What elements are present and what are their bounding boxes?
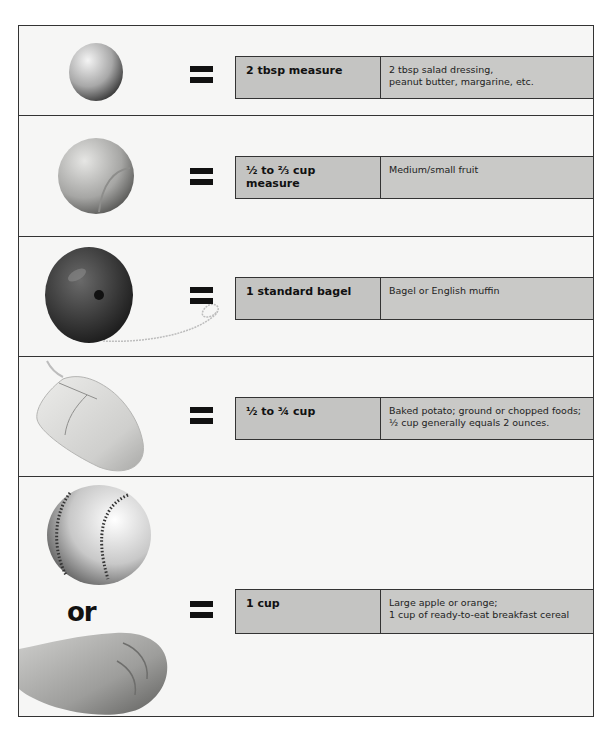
description: Bagel or English muffin bbox=[381, 278, 593, 319]
or-label: or bbox=[67, 597, 96, 627]
description-line: peanut butter, margarine, etc. bbox=[389, 76, 585, 88]
golf-ball-icon bbox=[66, 42, 126, 102]
row-tennis-ball: ½ to ⅔ cup measure Medium/small fruit bbox=[19, 116, 593, 237]
equals-sign-icon bbox=[190, 287, 213, 304]
row-yo-yo: 1 standard bagel Bagel or English muffin bbox=[19, 237, 593, 357]
description: 2 tbsp salad dressing, peanut butter, ma… bbox=[381, 57, 593, 98]
row-golf-ball: 2 tbsp measure 2 tbsp salad dressing, pe… bbox=[19, 26, 593, 116]
measure-label: 2 tbsp measure bbox=[236, 57, 381, 98]
description-line: ½ cup generally equals 2 ounces. bbox=[389, 417, 585, 429]
description-line: 2 tbsp salad dressing, bbox=[389, 64, 585, 76]
baseball-icon bbox=[44, 483, 154, 587]
equals-sign-icon bbox=[190, 66, 213, 83]
description-line: Medium/small fruit bbox=[389, 164, 585, 176]
description-line: Large apple or orange; bbox=[389, 597, 585, 609]
equals-sign-icon bbox=[190, 168, 213, 185]
description-line: Bagel or English muffin bbox=[389, 285, 585, 297]
computer-mouse-icon bbox=[29, 359, 169, 475]
serving-box: 1 cup Large apple or orange; 1 cup of re… bbox=[235, 589, 594, 634]
measure-line: ½ to ⅔ cup bbox=[246, 164, 370, 177]
tennis-ball-icon bbox=[54, 134, 138, 218]
measure-line: measure bbox=[246, 177, 370, 190]
measure-label: ½ to ⅔ cup measure bbox=[236, 157, 381, 198]
row-baseball-or-fist: or 1 cup Large apple or orange; 1 cup of… bbox=[19, 477, 593, 717]
description-line: 1 cup of ready-to-eat breakfast cereal bbox=[389, 609, 585, 621]
measure-label: 1 cup bbox=[236, 590, 381, 633]
measure-label: 1 standard bagel bbox=[236, 278, 381, 319]
measure-label: ½ to ¾ cup bbox=[236, 398, 381, 439]
description: Baked potato; ground or chopped foods; ½… bbox=[381, 398, 593, 439]
serving-box: 1 standard bagel Bagel or English muffin bbox=[235, 277, 594, 320]
description-line: Baked potato; ground or chopped foods; bbox=[389, 405, 585, 417]
serving-size-chart: 2 tbsp measure 2 tbsp salad dressing, pe… bbox=[18, 25, 594, 717]
description: Medium/small fruit bbox=[381, 157, 593, 198]
yo-yo-icon bbox=[43, 245, 243, 351]
description: Large apple or orange; 1 cup of ready-to… bbox=[381, 590, 593, 633]
row-computer-mouse: ½ to ¾ cup Baked potato; ground or chopp… bbox=[19, 357, 593, 477]
equals-sign-icon bbox=[190, 407, 213, 424]
serving-box: ½ to ⅔ cup measure Medium/small fruit bbox=[235, 156, 594, 199]
serving-box: ½ to ¾ cup Baked potato; ground or chopp… bbox=[235, 397, 594, 440]
fist-icon bbox=[19, 629, 179, 717]
equals-sign-icon bbox=[190, 601, 213, 618]
serving-box: 2 tbsp measure 2 tbsp salad dressing, pe… bbox=[235, 56, 594, 99]
